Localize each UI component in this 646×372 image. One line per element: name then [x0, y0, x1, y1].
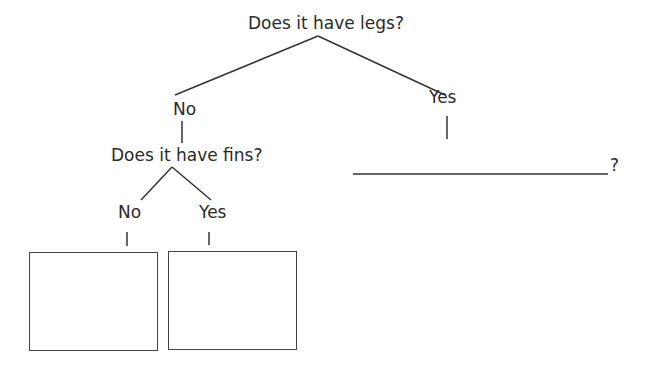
branch-label-no: No: [173, 99, 196, 119]
root-question: Does it have legs?: [248, 13, 404, 33]
edge-root-yes: [318, 36, 445, 95]
fins-branch-label-no: No: [118, 202, 141, 222]
edge-root-no: [175, 36, 318, 95]
fins-branch-label-yes: Yes: [199, 202, 226, 222]
blank-question-mark: ?: [610, 155, 619, 175]
edge-fins-no: [141, 167, 172, 200]
branch-label-yes: Yes: [429, 87, 456, 107]
edge-fins-yes: [172, 167, 211, 200]
answer-box-no-fins[interactable]: [29, 252, 158, 351]
answer-box-has-fins[interactable]: [168, 251, 297, 350]
fins-question: Does it have fins?: [111, 145, 262, 165]
